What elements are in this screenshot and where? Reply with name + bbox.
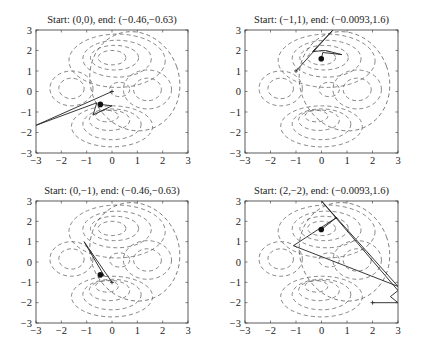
x-tick-label: 2 xyxy=(160,325,165,336)
x-tick-label: −2 xyxy=(56,155,67,166)
y-tick-label: −1 xyxy=(230,107,241,118)
plot-panel-1: −3−3−2−2−1−100112233Start: (0,0), end: (… xyxy=(21,14,194,166)
x-tick-label: −2 xyxy=(56,325,67,336)
x-tick-label: 0 xyxy=(319,155,324,166)
y-tick-label: −1 xyxy=(21,277,32,288)
x-tick-label: 1 xyxy=(344,325,349,336)
y-tick-label: 3 xyxy=(236,196,241,207)
y-tick-label: −3 xyxy=(21,318,32,329)
contour-lines xyxy=(259,19,404,147)
end-marker xyxy=(318,227,324,233)
x-tick-label: −2 xyxy=(265,325,276,336)
y-tick-label: 0 xyxy=(27,257,32,268)
x-tick-label: 2 xyxy=(370,155,375,166)
y-tick-label: −3 xyxy=(230,148,241,159)
x-tick-label: −1 xyxy=(81,325,92,336)
y-tick-label: 1 xyxy=(27,66,32,77)
y-tick-label: 2 xyxy=(236,216,241,227)
y-tick-label: 2 xyxy=(236,45,241,56)
x-tick-label: −3 xyxy=(30,155,41,166)
x-tick-label: 1 xyxy=(344,155,349,166)
end-marker xyxy=(318,56,324,62)
panel-title: Start: (0,−1), end: (−0.46,−0.63) xyxy=(44,185,180,197)
x-tick-label: 2 xyxy=(160,155,165,166)
y-tick-label: −2 xyxy=(230,127,241,138)
x-tick-label: −3 xyxy=(239,325,250,336)
plot-panel-2: −3−3−2−2−1−100112233Start: (−1,1), end: … xyxy=(230,14,404,166)
y-tick-label: −3 xyxy=(21,148,32,159)
y-tick-label: 0 xyxy=(236,86,241,97)
y-tick-label: 1 xyxy=(236,236,241,247)
y-tick-label: −2 xyxy=(21,297,32,308)
panel-title: Start: (−1,1), end: (−0.0093,1.6) xyxy=(254,14,389,26)
end-marker xyxy=(98,272,104,278)
y-tick-label: 2 xyxy=(27,216,32,227)
x-tick-label: −1 xyxy=(290,155,301,166)
y-tick-label: −1 xyxy=(230,277,241,288)
plot-panel-3: −3−3−2−2−1−100112233Start: (0,−1), end: … xyxy=(21,185,194,336)
x-tick-label: 1 xyxy=(135,325,140,336)
x-tick-label: 0 xyxy=(319,325,324,336)
x-tick-label: 2 xyxy=(370,325,375,336)
y-tick-label: −3 xyxy=(230,318,241,329)
x-tick-label: −3 xyxy=(30,325,41,336)
x-tick-label: 3 xyxy=(185,325,190,336)
search-path xyxy=(293,201,398,303)
panel-title: Start: (0,0), end: (−0.46,−0.63) xyxy=(47,14,177,26)
chart-canvas: −3−3−2−2−1−100112233Start: (0,0), end: (… xyxy=(0,0,421,358)
y-tick-label: 0 xyxy=(27,86,32,97)
x-tick-label: −1 xyxy=(290,325,301,336)
y-tick-label: 3 xyxy=(236,25,241,36)
contour-lines xyxy=(259,190,403,317)
y-tick-label: 3 xyxy=(27,196,32,207)
y-tick-label: −1 xyxy=(21,107,32,118)
start-marker xyxy=(371,301,375,305)
y-tick-label: 2 xyxy=(27,45,32,56)
search-path xyxy=(36,92,112,126)
x-tick-label: −3 xyxy=(239,155,250,166)
plot-panel-4: −3−3−2−2−1−100112233Start: (2,−2), end: … xyxy=(230,185,404,336)
x-tick-label: 3 xyxy=(395,155,400,166)
contour-lines xyxy=(50,190,194,317)
axes-box xyxy=(245,30,398,153)
axes-box xyxy=(36,201,188,323)
x-tick-label: 3 xyxy=(185,155,190,166)
x-tick-label: 3 xyxy=(395,325,400,336)
search-path xyxy=(296,30,342,71)
panel-title: Start: (2,−2), end: (−0.0093,1.6) xyxy=(254,185,389,197)
x-tick-label: −1 xyxy=(81,155,92,166)
y-tick-label: 1 xyxy=(27,236,32,247)
x-tick-label: 0 xyxy=(109,155,114,166)
x-tick-label: −2 xyxy=(265,155,276,166)
axes-box xyxy=(245,201,398,323)
y-tick-label: 0 xyxy=(236,257,241,268)
y-tick-label: −2 xyxy=(230,297,241,308)
end-marker xyxy=(98,102,104,108)
x-tick-label: 1 xyxy=(135,155,140,166)
y-tick-label: −2 xyxy=(21,127,32,138)
y-tick-label: 3 xyxy=(27,25,32,36)
contour-lines xyxy=(50,19,194,147)
x-tick-label: 0 xyxy=(109,325,114,336)
y-tick-label: 1 xyxy=(236,66,241,77)
